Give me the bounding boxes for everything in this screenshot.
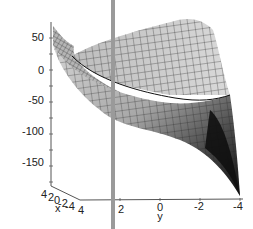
x-tick-neg4: -4 [65,200,75,212]
y-tick-2: 2 [118,203,124,215]
z-tick-neg100: -100 [22,125,44,137]
y-tick-neg4: -4 [233,200,243,212]
overlay-bar [111,0,115,229]
surface [53,19,240,196]
surface-plot: 50 0 -50 -100 -150 4 2 0 -2 -4 x 4 2 0 -… [0,0,253,229]
y-tick-4: 4 [78,204,84,216]
x-tick-4: 4 [41,188,47,200]
z-tick-neg50: -50 [28,94,44,106]
y-axis-label: y [157,210,163,222]
z-tick-neg150: -150 [22,156,44,168]
z-axis: 50 0 -50 -100 -150 [22,22,53,186]
y-tick-neg2: -2 [194,200,204,212]
y-axis: 4 2 0 -2 -4 y [78,198,243,222]
z-tick-50: 50 [32,31,44,43]
x-axis-label: x [55,202,61,214]
z-tick-0: 0 [38,64,44,76]
x-axis: 4 2 0 -2 -4 x [41,186,80,214]
